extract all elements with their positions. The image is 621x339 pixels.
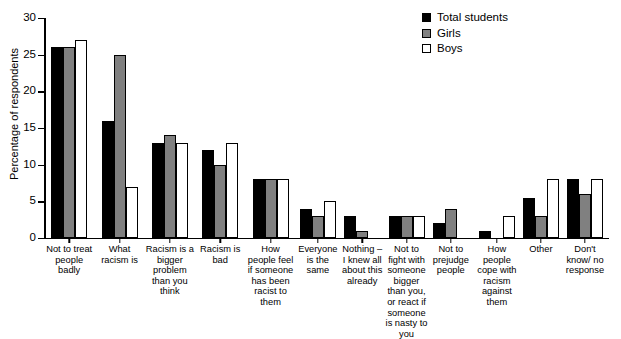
bar-boys [75, 40, 87, 238]
x-tick [220, 238, 221, 243]
x-tick [119, 238, 120, 243]
bar-boys [176, 143, 188, 238]
bar-girls [401, 216, 413, 238]
x-tick [540, 238, 541, 243]
legend-item-boys: Boys [422, 41, 508, 57]
x-tick [406, 238, 407, 243]
bar-boys [503, 216, 515, 238]
x-tick [496, 238, 497, 243]
x-tick [317, 238, 318, 243]
legend-label: Boys [437, 41, 463, 57]
bar-group [521, 18, 561, 238]
x-axis-label: Other [521, 244, 561, 255]
bar-girls [114, 55, 126, 238]
legend-label: Total students [437, 10, 508, 26]
bar-total-students [51, 47, 63, 238]
bar-group [561, 18, 609, 238]
x-axis-label: Racism is a bigger problem than you thin… [145, 244, 195, 297]
bar-girls [312, 216, 324, 238]
bar-total-students [433, 223, 445, 238]
bar-total-students [567, 179, 579, 238]
bar-girls [579, 194, 591, 238]
x-axis-label: What racism is [94, 244, 144, 265]
bar-total-students [202, 150, 214, 238]
bar-total-students [479, 231, 491, 238]
bar-total-students [300, 209, 312, 238]
y-tick-label-0: 0 [6, 232, 36, 244]
legend-swatch-icon [422, 13, 431, 22]
bar-total-students [102, 121, 114, 238]
x-axis-label: Nothing – I knew all about this already [340, 244, 384, 286]
bar-girls [164, 135, 176, 238]
x-tick [361, 238, 362, 243]
x-axis-category-labels: Not to treat people badlyWhat racism isR… [44, 244, 609, 339]
x-axis-label: Not to prejudge people [429, 244, 473, 276]
bar-total-students [253, 179, 265, 238]
legend: Total studentsGirlsBoys [422, 10, 508, 57]
bar-girls [445, 209, 457, 238]
plot-area [44, 18, 609, 239]
x-tick [169, 238, 170, 243]
bar-group [340, 18, 384, 238]
legend-item-girls: Girls [422, 26, 508, 42]
bar-boys [226, 143, 238, 238]
x-axis-label: Racism is bad [195, 244, 245, 265]
bar-groups [44, 18, 609, 238]
bar-girls [535, 216, 547, 238]
x-axis-label: How people feel if someone has been raci… [245, 244, 295, 308]
legend-swatch-icon [422, 44, 431, 53]
bar-group [195, 18, 245, 238]
legend-swatch-icon [422, 29, 431, 38]
x-axis-label: Not to fight with someone bigger than yo… [384, 244, 428, 339]
y-axis-title: Percentage of respondents [8, 4, 20, 224]
bar-boys [413, 216, 425, 238]
bar-girls [265, 179, 277, 238]
x-tick [68, 238, 69, 243]
bar-total-students [152, 143, 164, 238]
bar-girls [214, 165, 226, 238]
x-tick [584, 238, 585, 243]
bar-group [94, 18, 144, 238]
bar-group [245, 18, 295, 238]
bar-girls [63, 47, 75, 238]
bar-boys [126, 187, 138, 238]
x-axis-label: Not to treat people badly [44, 244, 94, 276]
x-axis-label: Don't know/ no response [561, 244, 609, 276]
bar-boys [324, 201, 336, 238]
x-axis-label: How people cope with racism against them [473, 244, 521, 308]
legend-label: Girls [437, 26, 461, 42]
bar-boys [277, 179, 289, 238]
bar-total-students [389, 216, 401, 238]
legend-item-total-students: Total students [422, 10, 508, 26]
x-axis-label: Everyone is the same [296, 244, 340, 276]
x-tick [450, 238, 451, 243]
bar-boys [591, 179, 603, 238]
bar-total-students [523, 198, 535, 238]
bar-boys [547, 179, 559, 238]
bar-group [44, 18, 94, 238]
x-tick [270, 238, 271, 243]
bar-group [145, 18, 195, 238]
bar-group [296, 18, 340, 238]
bar-girls [356, 231, 368, 238]
bar-total-students [344, 216, 356, 238]
